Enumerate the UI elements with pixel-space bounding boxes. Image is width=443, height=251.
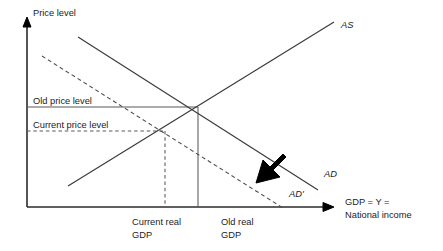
ad-curve-label: AD: [323, 169, 337, 179]
old-price-level-label: Old price level: [33, 96, 92, 106]
current-real-gdp-label-line2: GDP: [132, 230, 152, 240]
y-axis-label: Price level: [33, 8, 76, 18]
curves-group: [42, 22, 334, 208]
old-real-gdp-label-line1: Old real: [221, 217, 254, 227]
x-axis-label-line2: National income: [345, 210, 412, 220]
ad-shift-arrow: [256, 154, 286, 183]
ad-prime-curve: [42, 56, 283, 208]
diagram-canvas: Price level GDP = Y = National income AS…: [0, 0, 443, 251]
old-real-gdp-label-line2: GDP: [221, 230, 241, 240]
ad-prime-curve-label: AD': [288, 189, 305, 199]
shift-arrow-shape: [256, 154, 286, 183]
as-curve: [68, 22, 334, 186]
current-price-level-label: Current price level: [33, 120, 108, 130]
y-axis-arrowhead: [23, 17, 31, 27]
x-axis-label-line1: GDP = Y =: [345, 197, 389, 207]
labels-group: Price level GDP = Y = National income AS…: [33, 8, 412, 240]
axes-group: [23, 17, 334, 212]
ad-as-diagram: Price level GDP = Y = National income AS…: [0, 0, 443, 251]
as-curve-label: AS: [340, 20, 354, 30]
current-real-gdp-label-line1: Current real: [132, 217, 181, 227]
x-axis-arrowhead: [323, 203, 334, 212]
